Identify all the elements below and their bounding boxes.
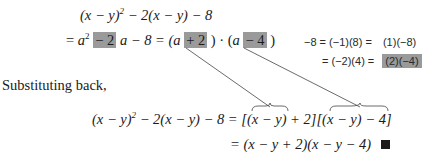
- final-factorization: = (x − y + 2)(x − y − 4): [230, 136, 371, 152]
- expression-back-substituted: (x − y)2 − 2(x − y) − 8 = [(x − y) + 2][…: [92, 110, 392, 128]
- expr-term: (x − y): [92, 111, 132, 127]
- expr-end: − 4]: [362, 111, 392, 127]
- grouped-term-1: (x − y): [247, 110, 287, 128]
- qed-square-icon: [381, 140, 390, 149]
- expr-mid: + 2][: [286, 111, 322, 127]
- grouped-term-2: (x − y): [322, 110, 362, 128]
- expression-final: = (x − y + 2)(x − y − 4): [230, 135, 390, 153]
- expr-rest: − 2(x − y) − 8 = [: [136, 111, 247, 127]
